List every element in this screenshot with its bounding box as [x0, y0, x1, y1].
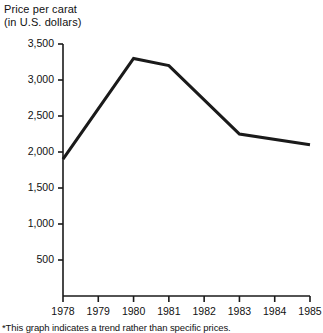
chart-footnote: *This graph indicates a trend rather tha…	[2, 322, 231, 333]
x-axis-tick-label: 1978	[43, 306, 83, 317]
x-axis-tick-label: 1979	[78, 306, 118, 317]
x-axis-tick-label: 1982	[184, 306, 224, 317]
x-axis-tick-label: 1981	[149, 306, 189, 317]
x-axis-tick-label: 1983	[219, 306, 259, 317]
x-axis-tick-label: 1985	[290, 306, 323, 317]
x-axis-tick-label: 1984	[255, 306, 295, 317]
x-axis-tick-label: 1980	[114, 306, 154, 317]
